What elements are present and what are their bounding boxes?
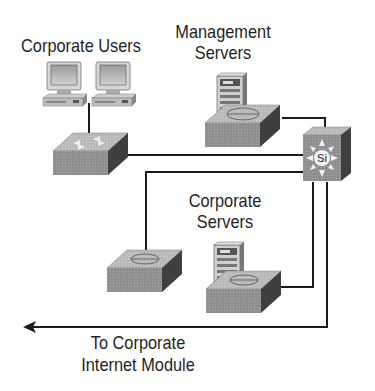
corporate-servers-label-line2: Servers [178,212,273,232]
management-servers-label-line1: Management [171,22,274,42]
left-switch-icon [107,250,182,292]
core-switch-label: Si [317,152,327,164]
corporate-servers-label-line1: Corporate [178,191,273,211]
management-servers-label-line2: Servers [171,43,274,63]
workstation-icon [92,62,136,106]
workstation-icon [43,62,87,106]
mgmt-switch-icon [205,105,280,147]
core-switch-icon [303,127,351,181]
corporate-users-label: Corporate Users [17,36,146,56]
internet-module-label-line1: To Corporate [78,333,198,353]
user-switch-icon [53,133,128,175]
internet-module-label-line2: Internet Module [69,355,207,375]
